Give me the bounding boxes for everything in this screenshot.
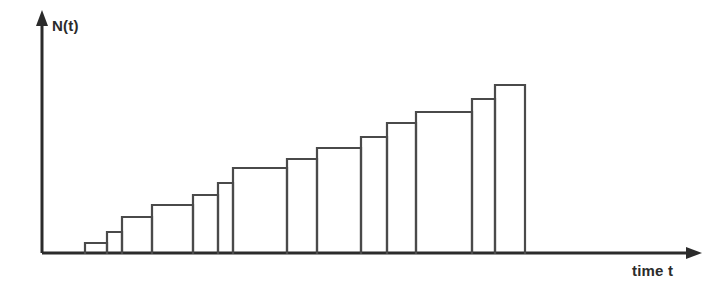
step-13 [472, 99, 495, 253]
step-10 [361, 137, 387, 253]
step-4 [152, 205, 193, 253]
x-axis-arrowhead [686, 247, 702, 259]
step-function-chart: N(t) time t [0, 0, 728, 290]
y-axis-label: N(t) [52, 17, 79, 34]
x-axis-label: time t [632, 262, 673, 279]
step-11 [387, 123, 416, 253]
y-axis-arrowhead [36, 10, 48, 26]
step-9 [317, 148, 361, 253]
staircase-steps-group [85, 85, 525, 253]
step-7 [233, 168, 287, 253]
step-8 [287, 159, 317, 253]
step-6 [218, 183, 233, 253]
step-14 [495, 85, 525, 253]
axes-group [36, 10, 702, 259]
step-2 [107, 232, 122, 253]
chart-canvas [0, 0, 728, 290]
step-3 [122, 217, 152, 253]
step-12 [416, 112, 472, 253]
step-5 [193, 195, 218, 253]
